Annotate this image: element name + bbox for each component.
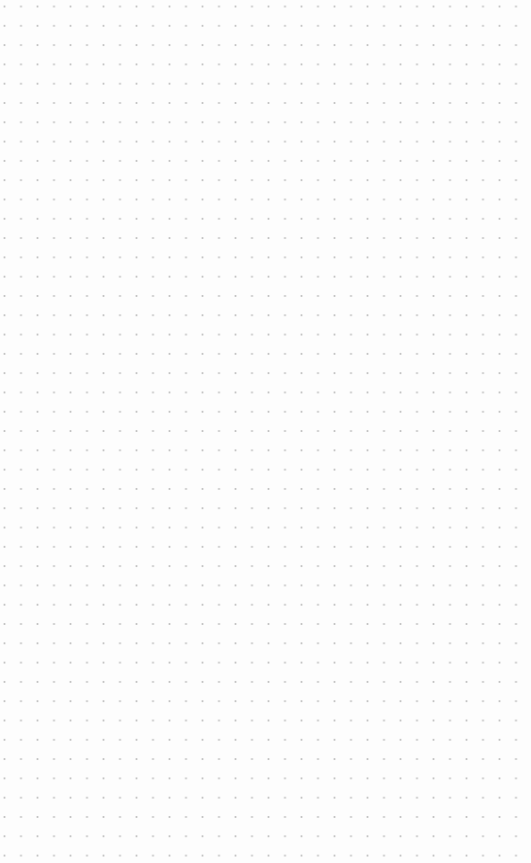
dot-grid-canvas[interactable] <box>0 0 531 863</box>
